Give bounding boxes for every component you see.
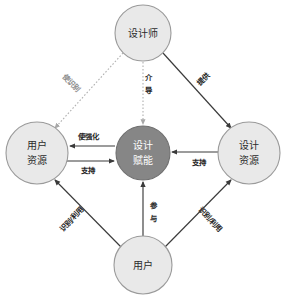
node-design-resources-label-line1: 设计 xyxy=(239,139,259,151)
edge-label-empowerment-to-user-resources: 使强化 xyxy=(77,132,100,141)
node-design-resources-circle[interactable] xyxy=(218,122,280,184)
node-user[interactable]: 用户 xyxy=(114,236,172,294)
node-user-resources[interactable]: 用户 资源 xyxy=(6,122,68,184)
node-user-resources-circle[interactable] xyxy=(6,122,68,184)
node-design-empowerment-label-line1: 设计 xyxy=(133,139,153,151)
node-user-label: 用户 xyxy=(133,259,153,271)
node-design-empowerment-label-line2: 赋能 xyxy=(133,154,153,166)
edge-label-user-to-empowerment-line2: 与 xyxy=(150,214,157,223)
edge-label-user-to-user-resources: 识别/利用 xyxy=(58,205,86,233)
design-empowerment-diagram: 设计师 用户 资源 设计 赋能 设计 资源 xyxy=(0,0,285,298)
edge-label-designer-to-design-resources: 提供 xyxy=(195,71,213,89)
edge-label-designer-to-empowerment-line2: 导 xyxy=(145,86,153,95)
edge-label-user-resources-to-empowerment: 支持 xyxy=(80,166,96,175)
node-design-empowerment-circle[interactable] xyxy=(116,126,170,180)
edge-label-designer-to-empowerment-line1: 介 xyxy=(144,73,153,82)
edge-label-user-to-empowerment-line1: 参 xyxy=(150,201,158,210)
node-user-resources-label-line2: 资源 xyxy=(27,154,47,166)
edge-label-design-resources-to-empowerment: 支持 xyxy=(191,158,207,167)
node-user-resources-label-line1: 用户 xyxy=(27,139,47,151)
node-design-resources-label-line2: 资源 xyxy=(239,154,259,166)
edge-user-to-design-resources xyxy=(164,180,231,248)
node-designer[interactable]: 设计师 xyxy=(115,5,171,61)
edge-designer-to-user-resources xyxy=(55,53,123,128)
edge-label-user-to-design-resources: 识别/利用 xyxy=(196,205,224,233)
node-layer: 设计师 用户 资源 设计 赋能 设计 资源 xyxy=(6,5,280,294)
edge-label-designer-to-user-resources: 使识别 xyxy=(60,71,81,93)
node-design-empowerment[interactable]: 设计 赋能 xyxy=(116,126,170,180)
node-design-resources[interactable]: 设计 资源 xyxy=(218,122,280,184)
edge-user-to-user-resources xyxy=(55,180,122,248)
diagram-canvas: 设计师 用户 资源 设计 赋能 设计 资源 xyxy=(0,0,285,298)
edge-designer-to-design-resources xyxy=(163,53,231,128)
node-designer-label: 设计师 xyxy=(128,27,158,39)
